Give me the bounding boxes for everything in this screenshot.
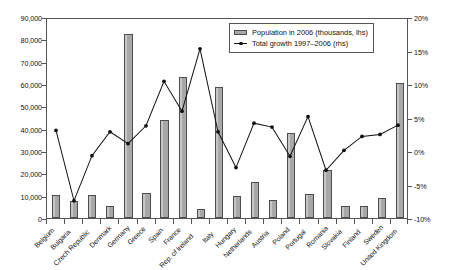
growth-point-bulgaria — [72, 199, 76, 203]
y-tick-label-left: 50,000 — [21, 103, 42, 112]
bar-swatch-icon — [234, 30, 247, 35]
growth-line — [56, 49, 398, 201]
growth-point-poland — [288, 154, 292, 158]
y-tick-right — [408, 152, 412, 153]
growth-point-hungary — [234, 166, 238, 170]
growth-point-czech-republic — [90, 154, 94, 158]
y-tick-label-left: 20,000 — [21, 170, 42, 179]
y-tick-left — [42, 219, 46, 220]
legend-item-population: Population in 2006 (thousands, lhs) — [234, 27, 368, 38]
growth-point-portugal — [306, 115, 310, 119]
growth-point-germany — [126, 142, 130, 146]
y-tick-left — [42, 18, 46, 19]
y-tick-label-right: 10% — [414, 81, 428, 90]
y-tick-label-left: 10,000 — [21, 192, 42, 201]
y-tick-right — [408, 85, 412, 86]
growth-point-united-kingdom — [396, 123, 400, 127]
x-axis-labels: BelgiumBulgariaCzech RepublicDenmarkGerm… — [0, 224, 459, 270]
y-tick-label-right: -10% — [414, 215, 430, 224]
y-tick-label-left: 40,000 — [21, 125, 42, 134]
growth-point-netherlands — [252, 121, 256, 125]
growth-point-denmark — [108, 130, 112, 134]
y-tick-left — [42, 63, 46, 64]
y-tick-label-left: 60,000 — [21, 81, 42, 90]
y-tick-label-right: 5% — [414, 114, 424, 123]
y-tick-left — [42, 130, 46, 131]
y-tick-left — [42, 85, 46, 86]
y-axis-right: -10%-5%0%5%10%15%20% — [414, 18, 458, 219]
y-tick-label-right: 15% — [414, 47, 428, 56]
line-marker-icon — [234, 40, 247, 47]
y-tick-label-right: -5% — [414, 181, 426, 190]
y-tick-right — [408, 18, 412, 19]
y-tick-label-right: 0% — [414, 148, 424, 157]
growth-point-sweden — [378, 133, 382, 137]
growth-point-finland — [360, 135, 364, 139]
growth-point-belgium — [54, 129, 58, 133]
population-growth-chart: 010,00020,00030,00040,00050,00060,00070,… — [0, 0, 459, 270]
y-tick-label-left: 90,000 — [21, 14, 42, 23]
y-tick-label-right: 20% — [414, 14, 428, 23]
x-label-austria: Austria — [250, 229, 270, 249]
y-tick-right — [408, 119, 412, 120]
y-tick-left — [42, 40, 46, 41]
legend-label-growth: Total growth 1997–2006 (rhs) — [252, 38, 348, 49]
chart-legend: Population in 2006 (thousands, lhs) Tota… — [229, 23, 374, 53]
y-tick-label-left: 30,000 — [21, 148, 42, 157]
y-tick-right — [408, 52, 412, 53]
growth-point-austria — [270, 125, 274, 129]
x-label-finland: Finland — [341, 228, 362, 249]
growth-point-spain — [162, 79, 166, 83]
growth-point-slovakia — [342, 148, 346, 152]
y-tick-label-left: 70,000 — [21, 58, 42, 67]
growth-point-romania — [324, 168, 328, 172]
growth-point-italy — [216, 130, 220, 134]
y-tick-label-left: 80,000 — [21, 36, 42, 45]
y-tick-right — [408, 219, 412, 220]
y-tick-left — [42, 152, 46, 153]
y-tick-left — [42, 174, 46, 175]
x-label-italy: Italy — [201, 230, 215, 244]
growth-point-greece — [144, 124, 148, 128]
y-axis-left: 010,00020,00030,00040,00050,00060,00070,… — [0, 18, 42, 219]
y-tick-right — [408, 186, 412, 187]
y-tick-left — [42, 197, 46, 198]
growth-point-france — [180, 109, 184, 113]
growth-point-rep-of-ireland — [198, 47, 202, 51]
legend-label-population: Population in 2006 (thousands, lhs) — [252, 27, 368, 38]
y-tick-left — [42, 107, 46, 108]
legend-item-growth: Total growth 1997–2006 (rhs) — [234, 38, 368, 49]
